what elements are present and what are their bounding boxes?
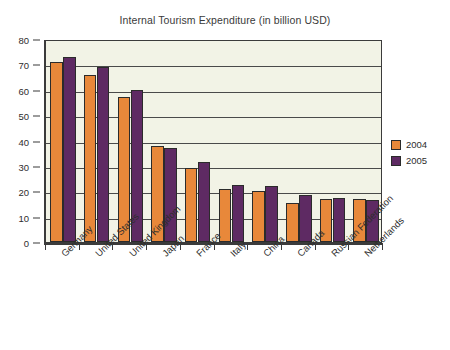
x-tick-mark <box>112 243 113 250</box>
legend-swatch-icon <box>391 140 401 150</box>
y-tick-mark <box>33 243 40 244</box>
y-tick-label: 10 <box>18 212 29 223</box>
x-tick-mark <box>315 243 316 250</box>
y-tick-label: 0 <box>24 238 29 249</box>
x-tick-mark <box>45 243 46 250</box>
bar-2005[interactable] <box>232 185 245 242</box>
y-tick-mark <box>33 141 40 142</box>
x-tick-mark <box>348 243 349 250</box>
bar-2005[interactable] <box>63 57 76 242</box>
bar-group <box>320 41 346 242</box>
chart-title: Internal Tourism Expenditure (in billion… <box>0 14 450 26</box>
y-axis: 01020304050607080 <box>0 40 40 243</box>
bar-group <box>286 41 312 242</box>
x-tick-mark <box>79 243 80 250</box>
legend-label: 2005 <box>406 155 427 166</box>
x-tick-mark <box>382 243 383 250</box>
legend-item-2005[interactable]: 2005 <box>391 155 447 166</box>
y-tick-label: 60 <box>18 85 29 96</box>
bar-2005[interactable] <box>265 186 278 242</box>
x-tick-mark <box>214 243 215 250</box>
y-tick-mark <box>33 166 40 167</box>
y-tick-label: 30 <box>18 161 29 172</box>
bar-2004[interactable] <box>185 168 198 242</box>
bar-2004[interactable] <box>286 203 299 242</box>
x-tick-mark <box>247 243 248 250</box>
bar-2005[interactable] <box>97 67 110 242</box>
y-tick-mark <box>33 90 40 91</box>
legend-swatch-icon <box>391 156 401 166</box>
bar-group <box>252 41 278 242</box>
y-tick-label: 80 <box>18 35 29 46</box>
y-tick-label: 70 <box>18 60 29 71</box>
x-tick-mark <box>146 243 147 250</box>
bar-group <box>219 41 245 242</box>
bar-2004[interactable] <box>50 62 63 242</box>
bar-2004[interactable] <box>84 75 97 242</box>
x-tick-mark <box>180 243 181 250</box>
y-tick-mark <box>33 116 40 117</box>
bar-2004[interactable] <box>219 189 232 242</box>
bar-2005[interactable] <box>164 148 177 242</box>
y-tick-mark <box>33 40 40 41</box>
legend-label: 2004 <box>406 139 427 150</box>
bar-2005[interactable] <box>198 162 211 242</box>
chart-figure: Internal Tourism Expenditure (in billion… <box>0 0 450 350</box>
bar-2004[interactable] <box>252 191 265 242</box>
y-tick-label: 50 <box>18 111 29 122</box>
bar-group <box>50 41 76 242</box>
bar-group <box>185 41 211 242</box>
chart-legend: 20042005 <box>391 139 447 171</box>
legend-item-2004[interactable]: 2004 <box>391 139 447 150</box>
y-tick-mark <box>33 217 40 218</box>
plot-area <box>45 40 382 243</box>
bar-group <box>84 41 110 242</box>
x-tick-mark <box>281 243 282 250</box>
y-tick-mark <box>33 192 40 193</box>
y-tick-mark <box>33 65 40 66</box>
y-tick-label: 40 <box>18 136 29 147</box>
y-tick-label: 20 <box>18 187 29 198</box>
